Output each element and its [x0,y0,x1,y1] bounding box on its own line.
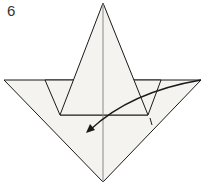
upper-point-triangle [60,3,148,115]
origami-diagram [0,0,203,189]
